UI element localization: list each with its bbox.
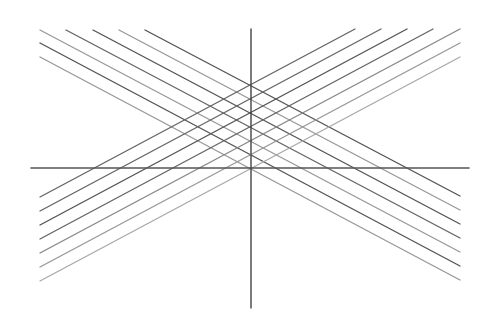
crossing-lines-diagram [0, 0, 491, 317]
ascending-lines [40, 29, 460, 281]
